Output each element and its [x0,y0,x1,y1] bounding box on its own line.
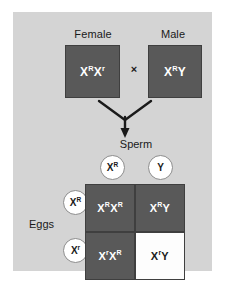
female-genotype-box: XRXr [65,45,120,98]
punnett-square-grid: XRXR XRY XrXR XrY [85,184,185,280]
sperm-gamete-y-text: Y [157,162,164,173]
female-parent-label: Female [61,28,125,40]
egg-gamete-xr-recessive-text: Xr [71,245,80,256]
egg-gamete-xr-dominant-text: XR [70,197,81,208]
offspring-XR-XR: XRXR [86,185,134,231]
converging-down-arrow-icon [97,98,155,140]
eggs-label: Eggs [29,218,75,230]
punnett-square-figure: Female Male XRXr × XRY Sperm XR Y Eggs X [0,0,225,283]
diagram-panel: Female Male XRXr × XRY Sperm XR Y Eggs X [13,12,212,271]
female-genotype-text: XRXr [80,65,105,79]
offspring-Xr-Y: XrY [136,233,184,279]
offspring-XR-XR-text: XRXR [97,202,123,214]
sperm-label: Sperm [103,138,169,150]
sperm-gamete-xr-text: XR [107,162,118,173]
male-parent-label: Male [145,28,201,40]
offspring-Xr-XR: XrXR [86,233,134,279]
sperm-gamete-xr: XR [100,155,125,180]
cross-symbol: × [120,63,148,75]
offspring-Xr-XR-text: XrXR [98,250,121,262]
offspring-XR-Y-text: XRY [150,202,170,214]
male-genotype-box: XRY [148,45,202,98]
male-genotype-text: XRY [164,65,186,79]
sperm-gamete-y: Y [148,155,173,180]
offspring-XR-Y: XRY [136,185,184,231]
offspring-Xr-Y-text: XrY [151,250,169,262]
